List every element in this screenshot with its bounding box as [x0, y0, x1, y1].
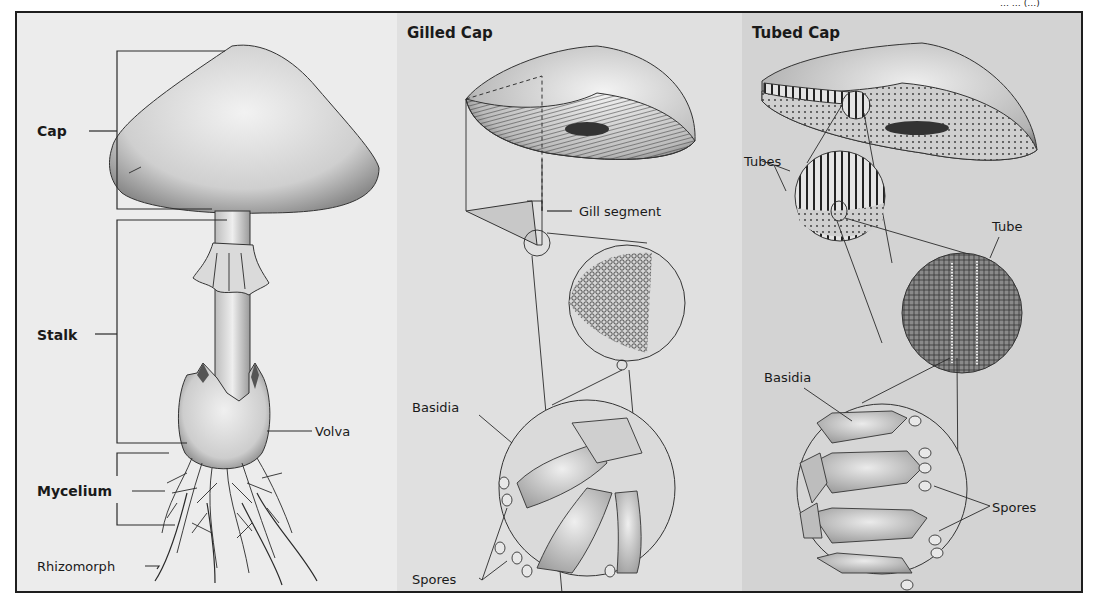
label-gill-segment: Gill segment — [579, 204, 661, 219]
rhizomorph-strands — [155, 493, 317, 585]
label-tubes: Tubes — [743, 154, 781, 169]
cap-shape — [109, 45, 379, 213]
tubed-cap-title: Tubed Cap — [752, 24, 840, 42]
gilled-cap-title: Gilled Cap — [407, 24, 493, 42]
diagram-frame: Cap Stalk Volva Mycelium Rhizomorph — [15, 11, 1083, 593]
label-spores: Spores — [412, 572, 457, 587]
whole-mushroom-illustration: Cap Stalk Volva Mycelium Rhizomorph — [17, 13, 397, 593]
panel-gilled-cap: Gilled Cap Gill segment — [397, 13, 742, 591]
label-mycelium: Mycelium — [37, 483, 112, 499]
magnified-tube-tissue — [902, 253, 1022, 373]
label-volva: Volva — [315, 424, 350, 439]
gilled-cap-illustration: Gilled Cap Gill segment — [397, 13, 742, 593]
label-basidia: Basidia — [412, 400, 459, 415]
tubed-cap-illustration: Tubed Cap Tubes Tube — [742, 13, 1083, 593]
cropped-caption: … … (…) — [1000, 0, 1040, 8]
label-cap: Cap — [37, 123, 67, 139]
label-tube: Tube — [991, 219, 1022, 234]
label-rhizomorph: Rhizomorph — [37, 559, 115, 574]
stalk-shape — [215, 211, 250, 411]
label-stalk: Stalk — [37, 327, 78, 343]
label-basidia-tubed: Basidia — [764, 370, 811, 385]
gill-segment-wedge — [466, 201, 537, 245]
panel-tubed-cap: Tubed Cap Tubes Tube — [742, 13, 1081, 591]
annulus-shape — [193, 243, 269, 295]
panel-whole-mushroom: Cap Stalk Volva Mycelium Rhizomorph — [17, 13, 397, 591]
label-spores-tubed: Spores — [992, 500, 1037, 515]
